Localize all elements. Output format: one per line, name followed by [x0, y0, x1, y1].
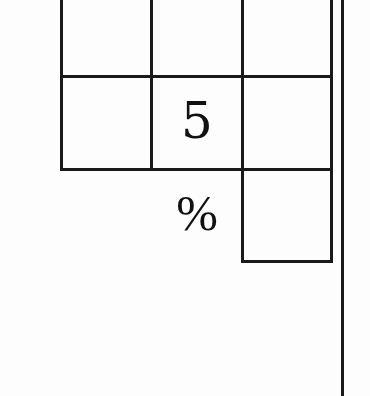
extra-box-bottom-border	[241, 260, 333, 263]
grid-bottom-border	[60, 168, 333, 171]
right-margin-line	[341, 0, 344, 396]
percent-symbol: %	[153, 188, 241, 238]
grid-column-divider-2	[241, 0, 244, 262]
grid-left-border	[60, 0, 63, 170]
grid-cell-value: 5	[153, 96, 241, 146]
grid-row-divider	[60, 75, 333, 78]
grid-right-border	[330, 0, 333, 262]
puzzle-diagram: 5 %	[0, 0, 370, 396]
